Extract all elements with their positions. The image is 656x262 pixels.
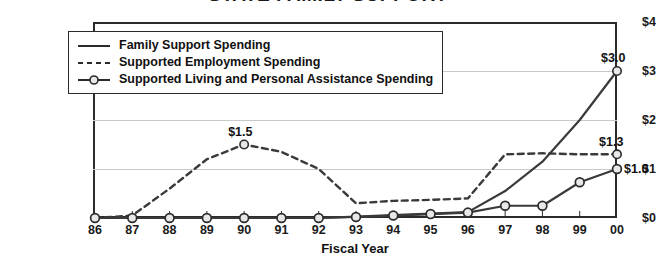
data-point-label: $1.5 [228, 125, 252, 139]
data-point-marker [165, 214, 174, 223]
data-point-label: $1.3 [599, 135, 623, 149]
data-point-label: $3.0 [601, 51, 625, 65]
data-point-marker [538, 201, 547, 210]
data-point-marker [613, 67, 621, 75]
legend-key-dashed-line [76, 56, 112, 70]
data-point-marker [277, 214, 286, 223]
data-point-marker [128, 214, 137, 223]
series-line-2 [95, 169, 617, 218]
data-point-label: $1.0 [624, 162, 648, 176]
data-point-marker [202, 214, 211, 223]
data-point-marker [240, 140, 248, 148]
data-point-marker [575, 178, 584, 187]
legend-item-supported-employment: Supported Employment Spending [76, 54, 433, 71]
data-point-marker [91, 214, 100, 223]
data-point-marker [389, 211, 398, 220]
data-point-marker [426, 210, 435, 219]
legend-label-family-support: Family Support Spending [119, 39, 270, 52]
data-point-marker [613, 150, 621, 158]
legend-label-supported-living: Supported Living and Personal Assistance… [119, 73, 433, 86]
data-point-marker [352, 213, 361, 222]
chart-legend: Family Support Spending Supported Employ… [68, 31, 443, 94]
data-point-marker [463, 208, 472, 217]
data-point-marker [613, 165, 622, 174]
data-point-marker [501, 201, 510, 210]
legend-item-family-support: Family Support Spending [76, 37, 433, 54]
legend-key-circle-marker-line [76, 73, 112, 87]
legend-item-supported-living: Supported Living and Personal Assistance… [76, 71, 433, 88]
legend-label-supported-employment: Supported Employment Spending [119, 56, 320, 69]
data-point-marker [240, 214, 249, 223]
legend-key-solid-line [76, 39, 112, 53]
chart-container: STATE FAMILY SUPPORT $0$1$2$3$4 86878889… [0, 0, 656, 262]
data-point-marker [314, 214, 323, 223]
